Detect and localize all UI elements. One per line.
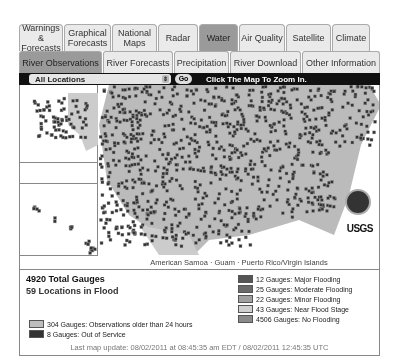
location-select[interactable]: All Locations⇕ xyxy=(29,74,171,84)
tab-river-observations[interactable]: River Observations xyxy=(19,51,102,73)
legend-swatch xyxy=(238,305,253,313)
legend: 4920 Total Gauges 59 Locations in Flood … xyxy=(19,270,380,356)
legend-item: 43 Gauges: Near Flood Stage xyxy=(238,304,353,314)
legend-swatch xyxy=(238,285,253,293)
tab-satellite[interactable]: Satellite xyxy=(286,24,331,51)
territory-links[interactable]: American Samoa · Guam · Puerto Rico/Virg… xyxy=(99,258,379,267)
tab-radar[interactable]: Radar xyxy=(158,24,198,51)
tab-climate[interactable]: Climate xyxy=(332,24,370,51)
tab-air-quality[interactable]: Air Quality xyxy=(239,24,285,51)
usgs-logo: USGS xyxy=(347,223,373,234)
tab-river-forecasts[interactable]: River Forecasts xyxy=(103,51,173,73)
legend-label: 22 Gauges: Minor Flooding xyxy=(256,296,340,303)
hydrograph-panel: Warnings & ForecastsGraphical ForecastsN… xyxy=(19,24,380,356)
legend-left: 304 Gauges: Observations older than 24 h… xyxy=(29,319,193,339)
legend-swatch xyxy=(238,315,253,323)
legend-item: 22 Gauges: Minor Flooding xyxy=(238,294,353,304)
zoom-hint: Click The Map To Zoom In. xyxy=(206,75,307,84)
hawaii-inset[interactable] xyxy=(20,184,98,256)
legend-item: 304 Gauges: Observations older than 24 h… xyxy=(29,319,193,329)
tab-river-download[interactable]: River Download xyxy=(230,51,301,73)
legend-item: 12 Gauges: Major Flooding xyxy=(238,274,353,284)
legend-label: 25 Gauges: Moderate Flooding xyxy=(256,286,353,293)
legend-label: 304 Gauges: Observations older than 24 h… xyxy=(47,321,193,328)
legend-swatch xyxy=(29,330,44,338)
tab-graphical-forecasts[interactable]: Graphical Forecasts xyxy=(64,24,111,51)
legend-swatch xyxy=(238,275,253,283)
secondary-tabs: River ObservationsRiver ForecastsPrecipi… xyxy=(19,51,380,73)
legend-label: 8 Gauges: Out of Service xyxy=(47,331,126,338)
tab-water[interactable]: Water xyxy=(199,24,238,51)
legend-swatch xyxy=(238,295,253,303)
legend-label: 43 Gauges: Near Flood Stage xyxy=(256,306,349,313)
tab-precipitation[interactable]: Precipitation xyxy=(174,51,229,73)
primary-tabs: Warnings & ForecastsGraphical ForecastsN… xyxy=(19,24,380,51)
inset-spacer xyxy=(20,163,98,184)
conus-map[interactable] xyxy=(99,85,379,255)
legend-right: 12 Gauges: Major Flooding25 Gauges: Mode… xyxy=(238,274,353,324)
gauge-map[interactable]: USGS American Samoa · Guam · Puerto Rico… xyxy=(19,85,380,270)
legend-swatch xyxy=(29,320,44,328)
location-select-value: All Locations xyxy=(35,75,85,84)
tab-warnings-forecasts[interactable]: Warnings & Forecasts xyxy=(19,24,63,51)
legend-item: 8 Gauges: Out of Service xyxy=(29,329,193,339)
legend-item: 4506 Gauges: No Flooding xyxy=(238,314,353,324)
alaska-inset[interactable] xyxy=(20,85,98,163)
last-update: Last map update: 08/02/2011 at 08:45:35 … xyxy=(20,343,379,352)
noaa-logo xyxy=(345,189,371,215)
legend-item: 25 Gauges: Moderate Flooding xyxy=(238,284,353,294)
legend-label: 4506 Gauges: No Flooding xyxy=(256,316,340,323)
tab-other-information[interactable]: Other Information xyxy=(302,51,380,73)
go-button[interactable]: Go xyxy=(175,74,192,84)
legend-label: 12 Gauges: Major Flooding xyxy=(256,276,340,283)
select-arrows-icon: ⇕ xyxy=(162,75,169,83)
tab-national-maps[interactable]: National Maps xyxy=(112,24,157,51)
location-toolbar: All Locations⇕ Go Click The Map To Zoom … xyxy=(19,73,380,85)
